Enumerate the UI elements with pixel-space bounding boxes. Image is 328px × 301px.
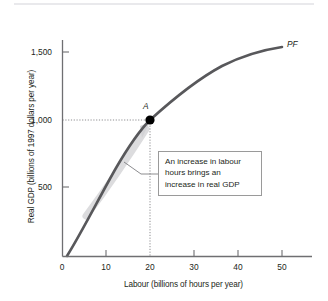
callout-leader-line bbox=[124, 162, 158, 174]
y-tick-label-1000: 1,000 bbox=[16, 115, 52, 125]
x-tick-label-30: 30 bbox=[182, 262, 206, 272]
x-tick-label-10: 10 bbox=[94, 262, 118, 272]
y-tick-label-500: 500 bbox=[16, 182, 52, 192]
x-tick-label-40: 40 bbox=[226, 262, 250, 272]
annotation-line-1: An increase in labour bbox=[165, 156, 256, 167]
movement-arrow-icon bbox=[86, 122, 150, 216]
y-axis-title: Real GDP (billions of 1997 dollars per y… bbox=[27, 42, 36, 252]
data-point-a-label: A bbox=[143, 101, 149, 111]
annotation-callout-box: An increase in labour hours brings an in… bbox=[158, 151, 262, 196]
x-tick-label-0: 0 bbox=[50, 262, 74, 272]
curve-label-pf: PF bbox=[287, 39, 298, 49]
x-tick-label-20: 20 bbox=[138, 262, 162, 272]
annotation-line-2: hours brings an bbox=[165, 167, 256, 178]
x-tick-label-50: 50 bbox=[270, 262, 294, 272]
x-axis-title: Labour (billions of hours per year) bbox=[124, 280, 243, 289]
annotation-line-3: increase in real GDP bbox=[165, 179, 256, 190]
data-point-a-marker bbox=[145, 115, 154, 124]
figure-container: Real GDP (billions of 1997 dollars per y… bbox=[0, 0, 328, 301]
y-tick-label-1500: 1,500 bbox=[16, 47, 52, 57]
